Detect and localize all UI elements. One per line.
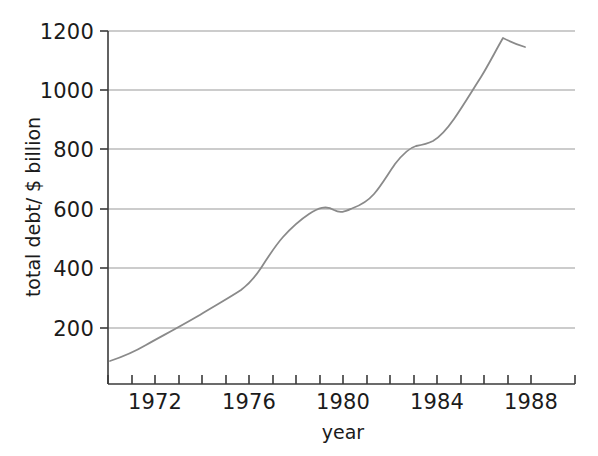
y-tick-label-1000: 1000 (40, 79, 94, 103)
x-tick-label-1988: 1988 (504, 390, 558, 414)
y-tick-marks (100, 31, 108, 328)
y-tick-label-800: 800 (53, 138, 94, 162)
y-tick-labels: 1200 1000 800 600 400 200 (40, 20, 94, 341)
y-tick-label-1200: 1200 (40, 20, 94, 44)
y-tick-label-200: 200 (53, 317, 94, 341)
x-tick-marks (108, 375, 575, 384)
data-line-total-debt (110, 38, 525, 361)
y-tick-label-400: 400 (53, 257, 94, 281)
line-chart: 1200 1000 800 600 400 200 1972 1976 1980… (0, 0, 598, 456)
x-tick-label-1980: 1980 (316, 390, 370, 414)
y-axis-title: total debt/ $ billion (22, 117, 44, 297)
x-tick-label-1976: 1976 (222, 390, 276, 414)
x-tick-label-1984: 1984 (410, 390, 464, 414)
chart-container: 1200 1000 800 600 400 200 1972 1976 1980… (0, 0, 598, 456)
axis-lines (108, 31, 575, 384)
x-axis-title: year (322, 421, 365, 443)
gridlines (108, 31, 575, 328)
y-tick-label-600: 600 (53, 198, 94, 222)
x-tick-labels: 1972 1976 1980 1984 1988 (128, 390, 558, 414)
x-tick-label-1972: 1972 (128, 390, 182, 414)
